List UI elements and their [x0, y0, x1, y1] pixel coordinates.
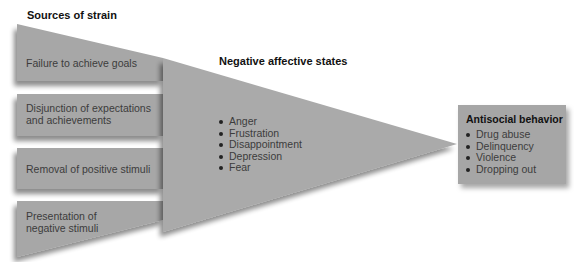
state-item: Disappointment: [217, 139, 302, 151]
outcome-item: Violence: [464, 152, 536, 164]
source-label-disjunction-line2: and achievements: [26, 114, 151, 126]
affective-states-funnel: [163, 58, 457, 232]
state-item: Fear: [217, 162, 302, 174]
source-label-presentation: Presentation of negative stimuli: [26, 210, 98, 234]
source-label-disjunction-line1: Disjunction of expectations: [26, 102, 151, 114]
source-block-1: [17, 24, 163, 81]
outcome-item: Drug abuse: [464, 129, 536, 141]
source-label-presentation-line2: negative stimuli: [26, 222, 98, 234]
states-title: Negative affective states: [219, 55, 347, 67]
states-list: Anger Frustration Disappointment Depress…: [217, 116, 302, 174]
outcome-title: Antisocial behavior: [466, 113, 563, 125]
antisocial-behavior-box: Antisocial behavior Drug abuse Delinquen…: [458, 105, 566, 184]
outcome-list: Drug abuse Delinquency Violence Dropping…: [464, 129, 536, 175]
source-label-removal: Removal of positive stimuli: [26, 163, 150, 175]
state-item: Anger: [217, 116, 302, 128]
outcome-item: Dropping out: [464, 164, 536, 176]
source-label-disjunction: Disjunction of expectations and achievem…: [26, 102, 151, 126]
source-label-failure: Failure to achieve goals: [26, 57, 137, 69]
source-label-presentation-line1: Presentation of: [26, 210, 98, 222]
